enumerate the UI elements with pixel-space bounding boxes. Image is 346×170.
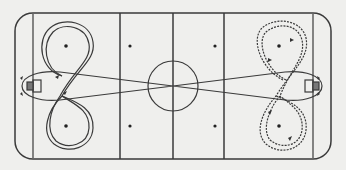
left-crease-box <box>33 80 41 92</box>
right-figure-eight-wavy-path <box>257 21 306 150</box>
right-net <box>313 82 319 90</box>
right-crease-box <box>305 80 313 92</box>
left-figure-eight-path <box>42 22 93 149</box>
hockey-rink-diagram <box>0 0 346 170</box>
left-net <box>27 82 33 90</box>
